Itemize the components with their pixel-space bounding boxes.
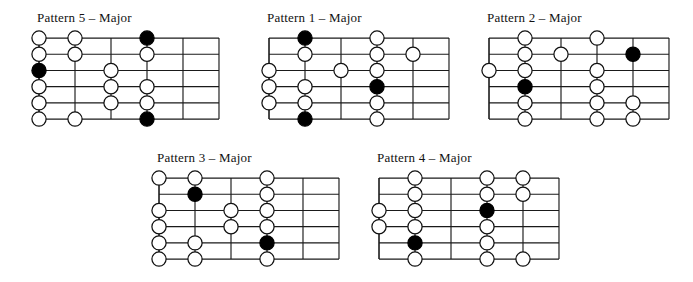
root-note-marker: [260, 236, 274, 250]
scale-note-marker: [480, 187, 494, 201]
scale-note-marker: [224, 203, 238, 217]
scale-note-marker: [260, 203, 274, 217]
scale-note-marker: [68, 31, 82, 45]
scale-note-marker: [518, 47, 532, 61]
scale-note-marker: [298, 80, 312, 94]
diagram-title-pattern-1: Pattern 1 – Major: [263, 10, 455, 26]
scale-diagram-pattern-4: Pattern 4 – Major: [373, 150, 565, 268]
scale-note-marker: [334, 63, 348, 77]
scale-note-marker: [104, 63, 118, 77]
scale-note-marker: [152, 203, 166, 217]
scale-diagram-pattern-1: Pattern 1 – Major: [263, 10, 455, 128]
root-note-marker: [626, 47, 640, 61]
fretboard-pattern-4: [373, 169, 565, 268]
scale-note-marker: [626, 112, 640, 126]
fretboard-pattern-3: [153, 169, 345, 268]
scale-note-marker: [260, 187, 274, 201]
scale-diagram-pattern-2: Pattern 2 – Major: [483, 10, 675, 128]
scale-note-marker: [480, 252, 494, 266]
scale-note-marker: [590, 112, 604, 126]
scale-note-marker: [518, 31, 532, 45]
scale-note-marker: [370, 112, 384, 126]
scale-note-marker: [152, 220, 166, 234]
scale-note-marker: [590, 80, 604, 94]
scale-note-marker: [68, 47, 82, 61]
scale-note-marker: [140, 80, 154, 94]
scale-note-marker: [262, 96, 276, 110]
scale-note-marker: [298, 47, 312, 61]
diagram-title-pattern-5: Pattern 5 – Major: [33, 10, 225, 26]
root-note-marker: [518, 80, 532, 94]
scale-note-marker: [32, 31, 46, 45]
root-note-marker: [32, 63, 46, 77]
root-note-marker: [140, 31, 154, 45]
fretboard-pattern-2: [483, 29, 675, 128]
scale-note-marker: [188, 236, 202, 250]
scale-note-marker: [554, 47, 568, 61]
scale-note-marker: [590, 63, 604, 77]
scale-note-marker: [262, 63, 276, 77]
scale-note-marker: [152, 252, 166, 266]
scale-note-marker: [406, 47, 420, 61]
root-note-marker: [140, 112, 154, 126]
fretboard-pattern-1: [263, 29, 455, 128]
scale-note-marker: [408, 187, 422, 201]
scale-note-marker: [518, 112, 532, 126]
scale-note-marker: [480, 236, 494, 250]
diagram-title-pattern-2: Pattern 2 – Major: [483, 10, 675, 26]
root-note-marker: [370, 80, 384, 94]
scale-note-marker: [516, 171, 530, 185]
diagram-title-pattern-4: Pattern 4 – Major: [373, 150, 565, 166]
scale-note-marker: [260, 252, 274, 266]
scale-note-marker: [370, 63, 384, 77]
scale-diagram-pattern-5: Pattern 5 – Major: [33, 10, 225, 128]
root-note-marker: [408, 236, 422, 250]
scale-note-marker: [408, 171, 422, 185]
diagram-title-pattern-3: Pattern 3 – Major: [153, 150, 345, 166]
root-note-marker: [188, 187, 202, 201]
scale-note-marker: [480, 220, 494, 234]
scale-note-marker: [152, 171, 166, 185]
scale-note-marker: [260, 171, 274, 185]
scale-diagram-pattern-3: Pattern 3 – Major: [153, 150, 345, 268]
scale-note-marker: [188, 171, 202, 185]
scale-note-marker: [626, 96, 640, 110]
scale-note-marker: [482, 63, 496, 77]
scale-note-marker: [32, 112, 46, 126]
scale-note-marker: [590, 31, 604, 45]
root-note-marker: [298, 31, 312, 45]
scale-note-marker: [372, 220, 386, 234]
scale-note-marker: [370, 47, 384, 61]
scale-note-marker: [104, 80, 118, 94]
scale-note-marker: [370, 96, 384, 110]
scale-note-marker: [188, 252, 202, 266]
scale-note-marker: [298, 96, 312, 110]
scale-note-marker: [224, 220, 238, 234]
fretboard-pattern-5: [33, 29, 225, 128]
scale-note-marker: [408, 252, 422, 266]
scale-note-marker: [32, 80, 46, 94]
scale-note-marker: [516, 252, 530, 266]
scale-note-marker: [518, 63, 532, 77]
scale-note-marker: [372, 203, 386, 217]
root-note-marker: [298, 112, 312, 126]
scale-note-marker: [408, 220, 422, 234]
scale-note-marker: [590, 96, 604, 110]
scale-note-marker: [32, 96, 46, 110]
scale-note-marker: [140, 47, 154, 61]
scale-note-marker: [104, 96, 118, 110]
scale-note-marker: [480, 171, 494, 185]
scale-note-marker: [152, 236, 166, 250]
scale-note-marker: [370, 31, 384, 45]
root-note-marker: [480, 203, 494, 217]
scale-note-marker: [140, 96, 154, 110]
scale-note-marker: [262, 80, 276, 94]
scale-note-marker: [32, 47, 46, 61]
scale-note-marker: [68, 112, 82, 126]
scale-note-marker: [260, 220, 274, 234]
scale-note-marker: [518, 96, 532, 110]
scale-note-marker: [516, 187, 530, 201]
scale-note-marker: [408, 203, 422, 217]
